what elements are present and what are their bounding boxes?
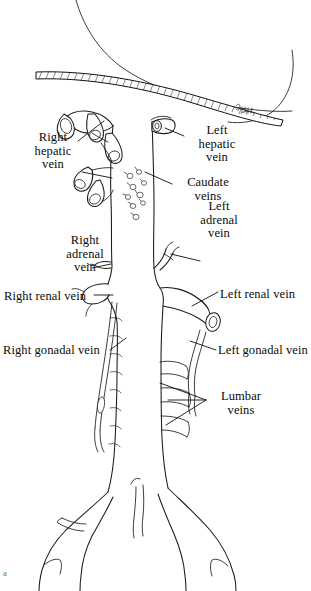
label-right-gonadal-vein: Right gonadal vein [3, 344, 113, 358]
inferior-vena-cava [107, 122, 168, 492]
leader-left-adrenal [171, 254, 200, 261]
label-line: Right renal vein [4, 290, 96, 304]
label-line: adrenal [54, 248, 116, 262]
label-right-renal-vein: Right renal vein [4, 290, 96, 304]
label-left-adrenal-vein: Left adrenal vein [188, 200, 250, 241]
label-line: Right gonadal vein [3, 344, 113, 358]
figure-panel-letter: a [3, 568, 7, 578]
label-line: vein [54, 261, 116, 275]
label-line: Left renal vein [220, 288, 308, 302]
label-line: hepatic [24, 145, 82, 159]
label-line: Right [54, 234, 116, 248]
label-right-hepatic-vein: Right hepatic vein [24, 131, 82, 172]
left-renal-vein-stump [160, 287, 222, 332]
label-line: vein [186, 151, 248, 165]
label-line: Left [186, 124, 248, 138]
label-left-renal-vein: Left renal vein [220, 288, 308, 302]
label-line: vein [24, 158, 82, 172]
label-line: Left gonadal vein [218, 344, 311, 358]
label-right-adrenal-vein: Right adrenal vein [54, 234, 116, 275]
label-line: adrenal [188, 214, 250, 228]
diaphragm [36, 0, 293, 126]
label-line: Right [24, 131, 82, 145]
caudate-vein-stumps [123, 167, 147, 220]
label-line: Caudate [174, 176, 242, 190]
leader-caudate [145, 172, 172, 184]
figure-root: Right hepatic vein Left hepatic vein Cau… [0, 0, 311, 591]
common-iliac-veins [39, 478, 236, 591]
leader-lumbar-1 [160, 383, 206, 400]
label-line: vein [188, 227, 250, 241]
label-line: veins [208, 404, 274, 418]
label-lumbar-veins: Lumbar veins [208, 390, 274, 417]
left-gonadal-vein [188, 330, 206, 416]
label-line: Lumbar [208, 390, 274, 404]
label-left-hepatic-vein: Left hepatic vein [186, 124, 248, 165]
label-line: Left [188, 200, 250, 214]
label-left-gonadal-vein: Left gonadal vein [218, 344, 311, 358]
label-line: hepatic [186, 138, 248, 152]
